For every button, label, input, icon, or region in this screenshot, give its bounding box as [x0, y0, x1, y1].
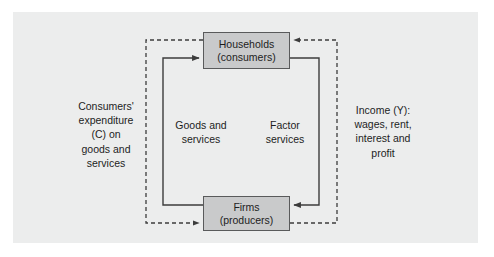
label-goods-and-services-line-2: services: [168, 132, 234, 146]
label-income-line-4: profit: [341, 146, 425, 160]
node-households: Households (consumers): [203, 32, 290, 69]
node-firms: Firms (producers): [203, 196, 290, 231]
label-income: Income (Y): wages, rent, interest and pr…: [341, 103, 425, 160]
label-goods-and-services-line-1: Goods and: [168, 118, 234, 132]
node-households-subtitle: (consumers): [217, 51, 275, 63]
diagram-canvas: Households (consumers) Firms (producers)…: [0, 0, 494, 257]
label-goods-and-services: Goods and services: [168, 118, 234, 146]
label-consumers-expenditure-line-5: services: [69, 156, 143, 170]
label-consumers-expenditure-line-2: expenditure: [69, 113, 143, 127]
node-firms-subtitle: (producers): [220, 214, 274, 226]
label-factor-services-line-1: Factor: [255, 118, 315, 132]
label-factor-services: Factor services: [255, 118, 315, 146]
node-households-title: Households: [219, 38, 274, 50]
label-consumers-expenditure: Consumers' expenditure (C) on goods and …: [69, 99, 143, 170]
label-consumers-expenditure-line-4: goods and: [69, 142, 143, 156]
label-income-line-3: interest and: [341, 131, 425, 145]
node-firms-title: Firms: [233, 201, 259, 213]
label-income-line-2: wages, rent,: [341, 117, 425, 131]
label-income-line-1: Income (Y):: [341, 103, 425, 117]
label-consumers-expenditure-line-3: (C) on: [69, 127, 143, 141]
label-consumers-expenditure-line-1: Consumers': [69, 99, 143, 113]
label-factor-services-line-2: services: [255, 132, 315, 146]
